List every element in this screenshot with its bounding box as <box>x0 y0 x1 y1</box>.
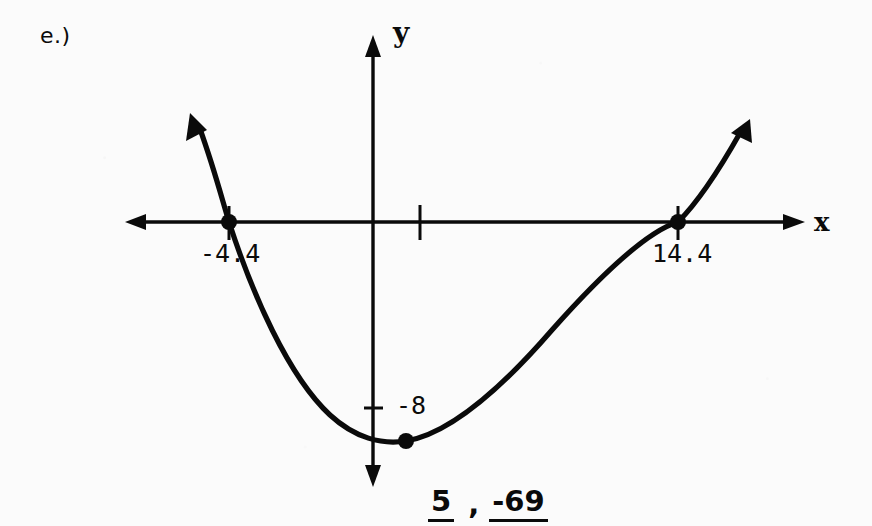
parabola-path <box>200 129 740 442</box>
x-axis-label: x <box>814 209 830 235</box>
vertex-y-value-label: -8 <box>396 393 426 418</box>
y-axis <box>364 35 383 487</box>
point-vertex <box>398 433 414 449</box>
y-axis-down-arrowhead <box>365 465 381 487</box>
coordinate-plane-graph <box>0 0 872 526</box>
x-axis-right-arrowhead <box>783 214 805 230</box>
graph-page: e.) y x -4.4 14.4 -8 5 , -69 <box>0 0 872 526</box>
vertex-y-numerator: -69 <box>489 487 547 522</box>
vertex-x-numerator: 5 <box>428 487 454 522</box>
vertex-coordinates-fraction: 5 , -69 <box>428 487 548 525</box>
vertex-y-fraction: -69 <box>489 487 547 525</box>
root-right-value-label: 14.4 <box>652 241 712 266</box>
problem-item-label: e.) <box>40 25 71 47</box>
parabola-curve <box>186 113 752 442</box>
x-axis-left-arrowhead <box>125 214 146 230</box>
y-axis-up-arrowhead <box>365 35 381 57</box>
y-axis-label: y <box>393 19 409 47</box>
vertex-x-fraction: 5 <box>428 487 454 525</box>
marked-points <box>221 206 686 449</box>
root-left-value-label: -4.4 <box>200 241 260 266</box>
coordinate-separator: , <box>454 487 489 521</box>
